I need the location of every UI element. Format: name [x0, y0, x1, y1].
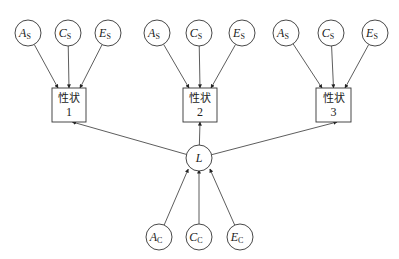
- trait-label: 性状: [189, 91, 211, 105]
- node-as-2: AS: [144, 20, 170, 46]
- node-label: L: [195, 151, 203, 165]
- trait-label: 性状: [58, 91, 80, 105]
- trait-number: 2: [197, 105, 203, 119]
- trait-number: 1: [66, 105, 72, 119]
- edge-cs-to-trait-2: [199, 46, 200, 88]
- node-cs-3: CS: [318, 20, 344, 46]
- edge-as-to-trait-2: [164, 44, 189, 88]
- node-cc: CC: [186, 224, 212, 250]
- edge-l-to-trait-2: [199, 122, 200, 145]
- path-diagram: ASCSES性状1ASCSES性状2ASCSES性状3ACCCECL: [0, 0, 399, 259]
- node-latent-l: L: [186, 145, 212, 171]
- node-es-2: ES: [229, 20, 255, 46]
- node-es-1: ES: [95, 20, 121, 46]
- edge-ac-to-l: [164, 169, 188, 225]
- node-ac: AC: [146, 224, 172, 250]
- trait-box-3: 性状3: [316, 88, 351, 122]
- edge-es-to-trait-3: [345, 44, 369, 88]
- trait-box-2: 性状2: [183, 88, 217, 122]
- node-as-3: AS: [273, 20, 299, 46]
- trait-number: 3: [331, 105, 337, 119]
- node-ec: EC: [227, 224, 253, 250]
- edge-as-to-trait-1: [34, 44, 58, 88]
- node-es-3: ES: [362, 20, 388, 46]
- edge-cs-to-trait-3: [332, 46, 334, 88]
- trait-label: 性状: [323, 91, 345, 105]
- node-cs-2: CS: [186, 20, 212, 46]
- edge-l-to-trait-3: [212, 122, 337, 155]
- trait-box-1: 性状1: [52, 88, 86, 122]
- edge-as-to-trait-3: [293, 44, 322, 88]
- node-as-1: AS: [15, 20, 41, 46]
- edge-es-to-trait-2: [211, 44, 236, 88]
- node-cs-1: CS: [55, 20, 81, 46]
- edge-ec-to-l: [210, 169, 235, 225]
- edge-l-to-trait-1: [72, 122, 186, 154]
- edge-es-to-trait-1: [80, 45, 102, 88]
- edge-cs-to-trait-1: [68, 46, 69, 88]
